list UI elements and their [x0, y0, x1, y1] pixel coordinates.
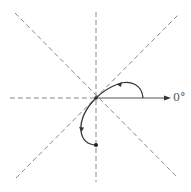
curve-arrow-upper-icon — [117, 82, 122, 87]
arrow-head-icon — [164, 96, 171, 101]
polar-diagram — [0, 0, 191, 192]
end-point — [94, 143, 98, 147]
dashed-guide-lines — [10, 12, 178, 182]
zero-degree-label: 0° — [173, 91, 186, 104]
locus-curve — [81, 83, 143, 145]
origin-point — [94, 96, 98, 100]
curve-arrow-lower-icon — [79, 127, 84, 132]
